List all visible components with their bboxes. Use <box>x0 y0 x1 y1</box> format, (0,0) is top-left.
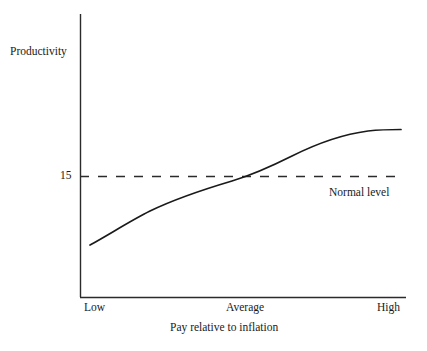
y-axis-title: Productivity <box>10 46 67 58</box>
normal-level-label: Normal level <box>329 187 389 199</box>
x-tick-label-average: Average <box>226 302 264 314</box>
x-tick-label-low: Low <box>84 302 105 314</box>
x-axis-title: Pay relative to inflation <box>170 322 278 334</box>
y-tick-label-15: 15 <box>60 170 72 182</box>
x-tick-label-high: High <box>377 302 400 314</box>
productivity-pay-chart: Productivity 15 Normal level Low Average… <box>0 0 427 351</box>
